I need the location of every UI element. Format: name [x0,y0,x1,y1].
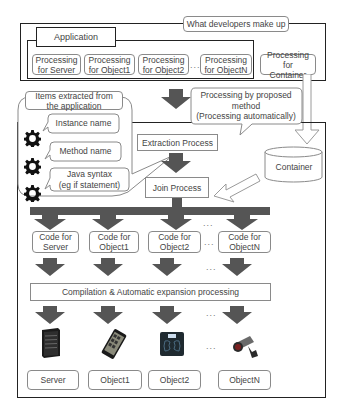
server-icon [40,328,62,362]
ellipsis: ... [203,218,214,228]
processing-server: Processing for Server [32,54,81,75]
target-objectN: ObjectN [218,370,271,390]
processing-object1: Processing for Object1 [84,54,135,75]
extracted-items-title: Items extracted from the application [25,91,123,110]
gear-icon [24,130,41,151]
container-label: Container [264,162,324,172]
ellipsis: ... [190,60,201,70]
processing-object2: Processing for Object2 [138,54,189,75]
ellipsis: ... [206,308,217,318]
item-label: Java syntax (eg if statement) [50,169,129,190]
developers-label: What developers make up [183,16,289,32]
down-arrows-targets [28,306,273,326]
join-process: Join Process [145,177,209,198]
down-arrow-extraction [160,153,192,173]
gear-icon [24,158,41,179]
ellipsis: ... [206,262,217,272]
compilation-box: Compilation & Automatic expansion proces… [30,283,271,301]
smartphone-icon [99,328,129,364]
processing-container: Processing for Container [260,54,316,75]
code-objectN: Code for ObjectN [218,231,271,253]
target-object1: Object1 [88,370,142,390]
target-object2: Object2 [148,370,201,390]
camera-icon [230,332,260,364]
processing-objectN: Processing for ObjectN [200,54,252,75]
proposed-method-text: Processing by proposed method (Processin… [192,90,300,122]
scale-icon [160,332,184,360]
extraction-process: Extraction Process [137,134,218,151]
code-object1: Code for Object1 [89,231,139,253]
ellipsis: ... [204,237,215,247]
distribution-bar [28,198,273,233]
item-label: Method name [50,146,121,156]
target-server: Server [27,370,79,390]
down-arrows-compilation [28,258,273,278]
ellipsis: ... [206,341,217,351]
application-title: Application [36,27,116,47]
code-server: Code for Server [32,231,79,253]
code-object2: Code for Object2 [148,231,201,253]
item-label: Instance name [48,118,119,128]
